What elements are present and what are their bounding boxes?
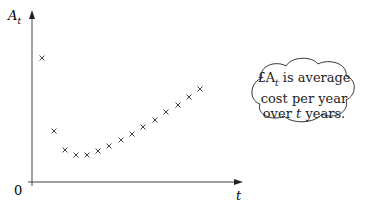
callout-text: £At is average cost per year over t year… (254, 70, 354, 121)
callout-line-2: cost per year (254, 91, 354, 106)
callout-line-3-rest: years. (301, 106, 345, 121)
callout-line-3-prefix: over (263, 106, 296, 121)
y-axis-label: At (8, 8, 21, 26)
callout-line-1: £At is average (254, 70, 354, 91)
y-axis-arrow-icon (29, 10, 35, 19)
y-axis-label-main: A (8, 8, 17, 23)
x-axis-label: t (236, 188, 241, 203)
x-axis-arrow-icon (234, 179, 243, 185)
origin-label: 0 (14, 183, 22, 198)
callout-line-1-rest: is average (279, 70, 351, 85)
callout-line-3: over t years. (254, 106, 354, 121)
data-points (40, 56, 203, 158)
y-axis-label-sub: t (17, 16, 21, 26)
callout-currency-var: £A (257, 70, 275, 85)
